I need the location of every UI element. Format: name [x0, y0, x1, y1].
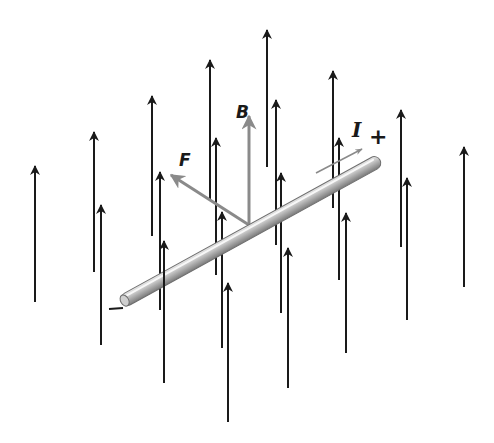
label-positive-terminal: +: [369, 124, 387, 149]
label-force: F: [179, 150, 191, 170]
label-current: I: [351, 118, 362, 142]
label-magnetic-field: B: [236, 102, 249, 122]
magnetic-field-lines-back: [152, 30, 339, 348]
current-carrying-rod: [118, 154, 383, 308]
negative-lead-wire: [109, 308, 123, 309]
magnetic-force-diagram: B F I +: [0, 0, 494, 443]
rod-body: [119, 154, 383, 307]
